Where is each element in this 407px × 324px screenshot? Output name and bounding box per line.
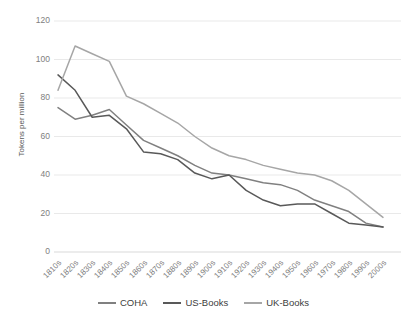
legend-swatch-icon bbox=[98, 302, 116, 304]
y-tick-label: 100 bbox=[24, 54, 50, 64]
legend-swatch-icon bbox=[244, 302, 262, 304]
legend-item-label: UK-Books bbox=[266, 297, 309, 308]
series-line-uk-books bbox=[58, 46, 383, 217]
legend-item-coha[interactable]: COHA bbox=[98, 297, 147, 308]
y-tick-label: 120 bbox=[24, 15, 50, 25]
y-tick-label: 60 bbox=[24, 131, 50, 141]
legend-item-label: COHA bbox=[120, 297, 147, 308]
y-tick-label: 0 bbox=[24, 246, 50, 256]
legend-item-us-books[interactable]: US-Books bbox=[163, 297, 228, 308]
y-tick-label: 40 bbox=[24, 169, 50, 179]
line-chart: Tokens per million 020406080100120 1810s… bbox=[0, 0, 407, 324]
y-tick-label: 80 bbox=[24, 92, 50, 102]
legend-item-uk-books[interactable]: UK-Books bbox=[244, 297, 309, 308]
legend-swatch-icon bbox=[163, 302, 181, 304]
legend-item-label: US-Books bbox=[185, 297, 228, 308]
series-line-coha bbox=[58, 108, 383, 227]
y-tick-label: 20 bbox=[24, 208, 50, 218]
chart-legend: COHAUS-BooksUK-Books bbox=[0, 297, 407, 308]
